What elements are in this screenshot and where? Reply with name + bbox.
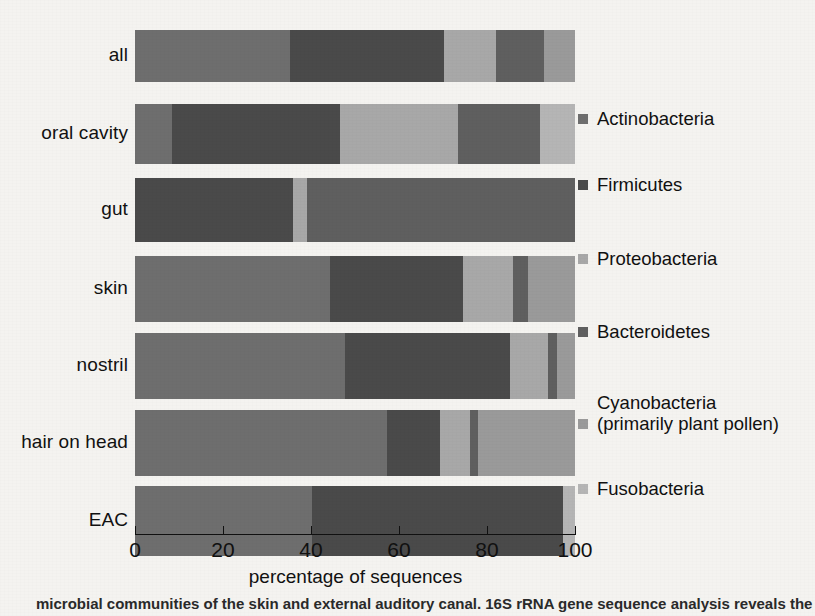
- legend-item[interactable]: Proteobacteria: [578, 248, 815, 269]
- bar-segment: [496, 30, 544, 82]
- bar-row: [135, 178, 575, 242]
- bar-segment: [135, 30, 290, 82]
- y-axis-label-nostril: nostril: [0, 354, 128, 376]
- bar-segment: [387, 410, 440, 476]
- bar-segment: [172, 104, 341, 164]
- bar-row: [135, 256, 575, 322]
- bar-row: [135, 30, 575, 82]
- x-axis-tick: [399, 526, 400, 534]
- legend-item[interactable]: Firmicutes: [578, 174, 815, 195]
- y-axis-label-EAC: EAC: [0, 509, 128, 531]
- legend-swatch-icon: [578, 484, 588, 494]
- bar-segment: [135, 256, 330, 322]
- legend-label: Fusobacteria: [597, 478, 704, 499]
- legend-item[interactable]: Fusobacteria: [578, 478, 815, 499]
- bar-segment: [510, 333, 548, 399]
- legend-swatch-icon: [578, 327, 588, 337]
- y-axis-label-oral-cavity: oral cavity: [0, 122, 128, 144]
- x-axis-tick: [135, 526, 136, 534]
- bar-segment: [135, 178, 293, 242]
- y-axis-label-all: all: [0, 44, 128, 66]
- x-axis-tick: [487, 526, 488, 534]
- legend-swatch-icon: [578, 114, 588, 124]
- x-tick-label: 20: [211, 538, 234, 562]
- x-tick-label: 60: [387, 538, 410, 562]
- bar-segment: [345, 333, 510, 399]
- y-axis-label-hair-on-head: hair on head: [0, 431, 128, 453]
- legend-swatch-icon: [578, 419, 588, 429]
- bar-segment: [293, 178, 306, 242]
- bar-segment: [444, 30, 496, 82]
- bar-segment: [307, 178, 575, 242]
- x-tick-label: 40: [299, 538, 322, 562]
- bar-segment: [470, 410, 478, 476]
- x-axis-tick: [311, 526, 312, 534]
- legend-label: Actinobacteria: [597, 108, 714, 129]
- x-axis-tick-labels: 020406080100: [0, 538, 815, 566]
- y-axis-category-labels: alloral cavitygutskinnostrilhair on head…: [0, 28, 128, 533]
- y-axis-label-skin: skin: [0, 277, 128, 299]
- x-axis-line: [135, 534, 576, 535]
- x-axis-tick: [223, 526, 224, 534]
- bar-segment: [458, 104, 540, 164]
- bar-row: [135, 333, 575, 399]
- legend-item[interactable]: Cyanobacteria (primarily plant pollen): [578, 392, 815, 434]
- y-axis-label-gut: gut: [0, 198, 128, 220]
- bar-row: [135, 104, 575, 164]
- bar-segment: [478, 410, 575, 476]
- x-tick-label: 100: [557, 538, 592, 562]
- bar-segment: [340, 104, 458, 164]
- bar-segment: [513, 256, 528, 322]
- bar-segment: [557, 333, 575, 399]
- bar-segment: [135, 410, 387, 476]
- caption-text: microbial communities of the skin and ex…: [36, 598, 815, 612]
- bar-segment: [135, 104, 172, 164]
- x-tick-label: 80: [475, 538, 498, 562]
- legend-label: Firmicutes: [597, 174, 682, 195]
- x-axis-title: percentage of sequences: [135, 566, 576, 588]
- bar-segment: [540, 104, 575, 164]
- bar-segment: [528, 256, 575, 322]
- x-axis-tick: [575, 526, 576, 534]
- legend-swatch-icon: [578, 254, 588, 264]
- plot-area: [135, 28, 575, 533]
- bar-segment: [463, 256, 514, 322]
- bar-segment: [290, 30, 444, 82]
- x-tick-label: 0: [129, 538, 141, 562]
- bar-segment: [544, 30, 575, 82]
- bar-segment: [135, 333, 345, 399]
- legend-item[interactable]: Actinobacteria: [578, 108, 815, 129]
- legend-label: Bacteroidetes: [597, 321, 710, 342]
- legend-label: Proteobacteria: [597, 248, 717, 269]
- bar-row: [135, 410, 575, 476]
- figure-caption-sliver: microbial communities of the skin and ex…: [0, 598, 815, 616]
- bar-segment: [548, 333, 557, 399]
- legend-label: Cyanobacteria (primarily plant pollen): [597, 392, 779, 434]
- legend-item[interactable]: Bacteroidetes: [578, 321, 815, 342]
- bar-segment: [330, 256, 463, 322]
- legend-swatch-icon: [578, 180, 588, 190]
- bar-segment: [440, 410, 470, 476]
- figure-stacked-bar-chart: alloral cavitygutskinnostrilhair on head…: [0, 0, 815, 616]
